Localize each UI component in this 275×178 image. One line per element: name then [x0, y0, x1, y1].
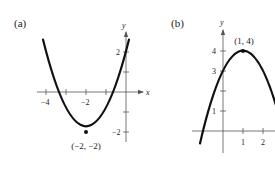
tick-label: −4 [41, 98, 50, 107]
y-axis-label-a: y [121, 21, 126, 30]
y-axis-label-b: y [219, 18, 224, 27]
tick-label: −2 [81, 98, 90, 107]
vertex-point-b [241, 49, 245, 53]
tick-label: 1 [212, 107, 216, 116]
vertex-label-a: (−2, −2) [71, 141, 101, 151]
tick-label: 4 [212, 47, 216, 56]
y-ticks-a: 2 −2 [112, 48, 129, 137]
tick-label: 2 [116, 48, 120, 57]
figure: (a) x y −4 −2 2 −2 (−2, −2) (b [0, 0, 275, 178]
x-axis-label-a: x [145, 88, 150, 97]
graph-b: (b) y 1 2 4 3 1 (1, 4) [171, 17, 275, 153]
vertex-label-b: (1, 4) [234, 36, 254, 46]
tick-label: 2 [261, 138, 265, 147]
graph-a: (a) x y −4 −2 2 −2 (−2, −2) [14, 17, 150, 151]
parabola-b [200, 51, 275, 144]
vertex-point-a [84, 130, 88, 134]
tick-label: −2 [112, 128, 121, 137]
panel-label-a: (a) [14, 17, 27, 30]
tick-label: 1 [241, 138, 245, 147]
panel-label-b: (b) [171, 17, 184, 30]
tick-label: 3 [212, 67, 216, 76]
